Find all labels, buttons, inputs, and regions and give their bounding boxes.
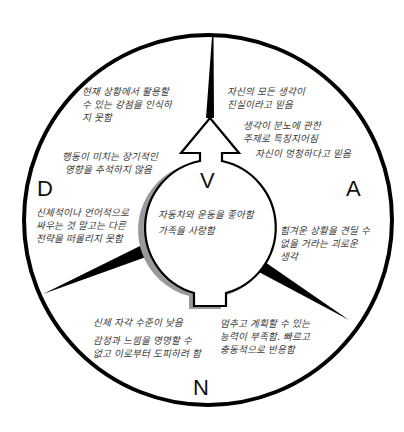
d-text-3-line-2: 싸우는 것 말고는 다른 — [36, 219, 126, 232]
d-text-2-line-2: 영향을 추적하지 않음 — [65, 163, 152, 176]
diagram-canvas: V A D N 자동차와 운동을 좋아함 가족을 사랑함 현재 상황에서 활용할… — [0, 0, 404, 432]
a-text-3-line-1: 자신이 멍청하다고 믿음 — [255, 147, 351, 160]
a-text-2-line-2: 주제로 특징지어짐 — [243, 132, 318, 145]
center-text-2: 가족을 사랑함 — [158, 224, 215, 237]
n-text-3-line-1: 멈추고 계획할 수 있는 — [220, 317, 310, 330]
d-text-3-line-1: 신체적이나 언어적으로 — [36, 206, 129, 219]
a-text-1-line-2: 진실이라고 믿음 — [227, 98, 293, 111]
d-text-2-line-1: 행동이 미치는 장기적인 — [62, 150, 158, 163]
d-text-1-line-1: 현재 상황에서 활용할 — [82, 85, 169, 98]
d-text-1-line-2: 수 있는 강점을 인식하 — [82, 98, 172, 111]
a-text-1-line-1: 자신의 모든 생각이 — [227, 85, 305, 98]
a-text-4-line-1: 힘겨운 상황을 견딜 수 — [280, 224, 370, 237]
spoke-lower-right — [257, 260, 349, 320]
label-n: N — [193, 375, 209, 401]
a-text-4-line-2: 없을 거라는 괴로운 — [280, 237, 358, 250]
label-v: V — [200, 168, 215, 194]
n-text-2-line-1: 감정과 느낌을 명명할 수 — [93, 334, 192, 347]
n-text-3-line-3: 충동적으로 반응함 — [220, 343, 295, 356]
a-text-4-line-3: 생각 — [280, 250, 298, 263]
label-a: A — [346, 176, 361, 202]
spoke-lower-left — [43, 246, 146, 294]
d-text-3-line-3: 전략을 떠올리지 못함 — [36, 232, 123, 245]
center-text-1: 자동차와 운동을 좋아함 — [158, 208, 254, 221]
label-d: D — [37, 176, 53, 202]
n-text-2-line-2: 없고 이로부터 도피하려 함 — [93, 347, 201, 360]
n-text-3-line-2: 능력이 부족함. 빠르고 — [220, 330, 310, 343]
n-text-1-line-1: 신체 자각 수준이 낮음 — [93, 316, 183, 329]
spoke-top — [206, 37, 214, 118]
a-text-2-line-1: 생각이 분노에 관한 — [243, 119, 321, 132]
d-text-1-line-3: 지 못함 — [82, 111, 112, 124]
